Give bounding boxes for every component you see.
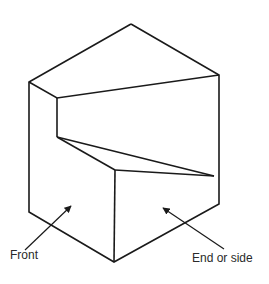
notch-slope-lower [57, 137, 115, 170]
side-arrow [163, 208, 224, 249]
front-arrow [25, 206, 71, 250]
end-or-side-label: End or side [192, 251, 253, 265]
block-diagram [0, 0, 269, 284]
top-face-edge [29, 75, 219, 98]
front-label: Front [10, 248, 38, 262]
front-corner-edge [114, 170, 115, 262]
notch-slope-upper [57, 137, 214, 176]
